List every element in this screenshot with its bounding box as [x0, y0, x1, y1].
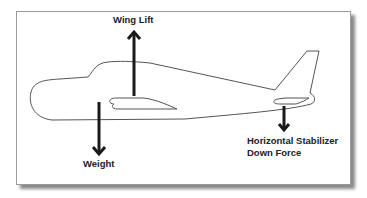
airplane-diagram	[0, 0, 367, 198]
wing-airfoil	[110, 98, 177, 109]
wing-lift-arrow	[128, 32, 140, 96]
stabilizer-label-line1: Horizontal Stabilizer	[247, 135, 338, 146]
weight-label: Weight	[83, 158, 115, 169]
wing-lift-label: Wing Lift	[113, 14, 154, 25]
fuselage-outline	[30, 51, 319, 120]
horizontal-stabilizer	[274, 98, 309, 104]
stabilizer-label-line2: Down Force	[247, 147, 301, 158]
weight-arrow	[93, 102, 105, 154]
